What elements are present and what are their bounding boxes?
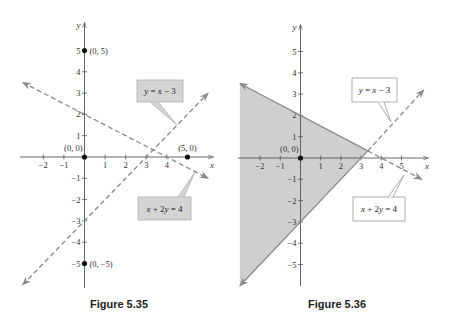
boundary-line bbox=[368, 151, 422, 179]
x-tick-label: 1 bbox=[319, 161, 323, 171]
plotted-point bbox=[82, 154, 87, 159]
callout-pointer bbox=[378, 102, 391, 122]
equation-label: x + 2y = 4 bbox=[145, 204, 183, 214]
point-label: (0, −5) bbox=[90, 259, 113, 269]
equation-callout: y = x − 3 bbox=[137, 80, 183, 125]
equation-callout: x + 2y = 4 bbox=[353, 175, 405, 221]
y-tick-label: −4 bbox=[71, 237, 81, 247]
x-tick-label: −2 bbox=[256, 161, 265, 171]
y-tick-label: 4 bbox=[76, 67, 81, 77]
y-tick-label: 5 bbox=[76, 46, 80, 56]
point-label: (0, 0) bbox=[280, 144, 299, 154]
figure-caption: Figure 5.36 bbox=[308, 298, 366, 310]
boundary-line bbox=[23, 93, 208, 285]
y-tick-label: −5 bbox=[287, 260, 296, 270]
y-tick-label: 1 bbox=[76, 131, 80, 141]
equation-label: y = x − 3 bbox=[358, 85, 391, 95]
x-tick-label: 2 bbox=[339, 161, 343, 171]
y-tick-label: −3 bbox=[71, 216, 80, 226]
equation-callout: x + 2y = 4 bbox=[138, 172, 195, 220]
x-tick-label: 1 bbox=[103, 160, 107, 170]
y-tick-label: −2 bbox=[287, 196, 296, 206]
figure-5-36: −2−112345−5−4−3−2−112345xy(0, 0)y = x − … bbox=[238, 22, 429, 310]
y-tick-label: −2 bbox=[71, 195, 80, 205]
equation-label: y = x − 3 bbox=[143, 86, 176, 96]
x-tick-label: 5 bbox=[399, 161, 403, 171]
point-label: (0, 5) bbox=[90, 46, 109, 56]
x-tick-label: −1 bbox=[59, 160, 68, 170]
figure-caption: Figure 5.35 bbox=[90, 298, 148, 310]
x-axis-label: x bbox=[424, 161, 429, 171]
x-tick-label: 4 bbox=[165, 160, 170, 170]
figures-canvas: −2−11234−5−4−3−2−112345xy(0, 5)(0, 0)(5,… bbox=[0, 0, 450, 328]
equation-callout: y = x − 3 bbox=[352, 78, 397, 122]
plotted-point bbox=[185, 154, 190, 159]
x-tick-label: −2 bbox=[39, 160, 48, 170]
y-tick-label: 3 bbox=[76, 88, 80, 98]
y-tick-label: −4 bbox=[287, 238, 297, 248]
y-tick-label: 5 bbox=[292, 47, 296, 57]
point-label: (0, 0) bbox=[64, 143, 83, 153]
y-axis-label: y bbox=[76, 20, 81, 30]
callout-pointer bbox=[388, 175, 404, 197]
y-tick-label: 1 bbox=[292, 132, 296, 142]
y-axis-label: y bbox=[292, 22, 297, 32]
plotted-point bbox=[82, 48, 87, 53]
x-tick-label: 4 bbox=[379, 161, 384, 171]
point-label: (5, 0) bbox=[178, 143, 197, 153]
plotted-point bbox=[82, 261, 87, 266]
figure-stage: −2−11234−5−4−3−2−112345xy(0, 5)(0, 0)(5,… bbox=[0, 0, 450, 328]
y-tick-label: −5 bbox=[71, 259, 80, 269]
shaded-solution-region bbox=[240, 84, 368, 286]
x-tick-label: 3 bbox=[144, 160, 148, 170]
callout-pointer bbox=[178, 172, 195, 197]
y-tick-label: 4 bbox=[292, 68, 297, 78]
x-tick-label: −1 bbox=[276, 161, 285, 171]
y-tick-label: 3 bbox=[292, 89, 296, 99]
equation-label: x + 2y = 4 bbox=[360, 204, 398, 214]
x-tick-label: 3 bbox=[359, 161, 363, 171]
callout-pointer bbox=[150, 102, 177, 125]
y-tick-label: −3 bbox=[287, 217, 296, 227]
figure-5-35: −2−11234−5−4−3−2−112345xy(0, 5)(0, 0)(5,… bbox=[20, 20, 214, 310]
y-tick-label: −1 bbox=[71, 173, 80, 183]
plotted-point bbox=[298, 155, 303, 160]
y-tick-label: −1 bbox=[287, 174, 296, 184]
x-axis-label: x bbox=[209, 160, 214, 170]
y-tick-label: 2 bbox=[76, 109, 80, 119]
x-tick-label: 2 bbox=[124, 160, 128, 170]
